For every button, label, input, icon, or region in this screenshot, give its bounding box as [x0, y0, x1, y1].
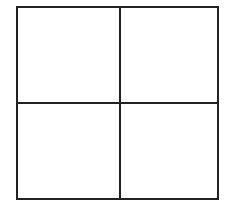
cell-label — [18, 104, 119, 144]
cell-label — [121, 8, 217, 48]
horizontal-divider — [18, 102, 217, 104]
grid-cell-top-left — [18, 8, 119, 102]
cell-label — [18, 8, 119, 48]
grid-cell-top-right — [121, 8, 217, 102]
grid-cell-bottom-right — [121, 104, 217, 198]
grid-cell-bottom-left — [18, 104, 119, 198]
two-by-two-grid — [16, 6, 219, 200]
cell-label — [121, 104, 217, 144]
